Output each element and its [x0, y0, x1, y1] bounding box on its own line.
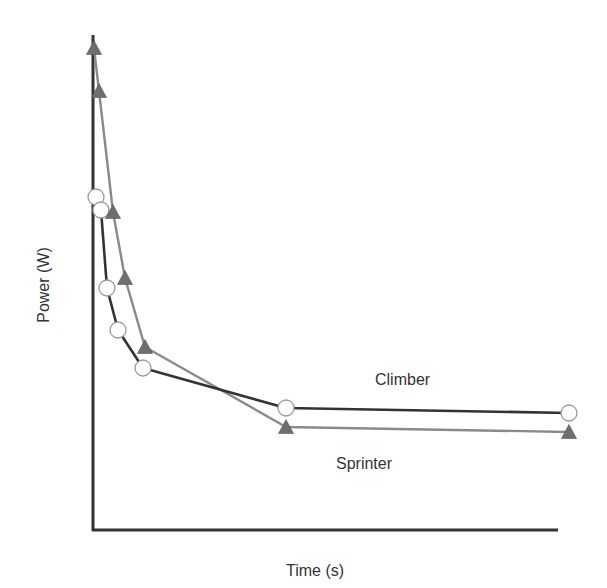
climber-series-label: Climber — [375, 371, 430, 389]
circle-marker-icon — [110, 322, 126, 338]
series-markers — [87, 41, 578, 439]
circle-marker-icon — [278, 400, 294, 416]
circle-marker-icon — [135, 360, 151, 376]
x-axis-label: Time (s) — [286, 562, 344, 580]
triangle-marker-icon — [118, 271, 133, 285]
circle-marker-icon — [99, 280, 115, 296]
climber-line — [96, 197, 569, 413]
chart-axes — [92, 35, 558, 531]
circle-marker-icon — [93, 202, 109, 218]
triangle-marker-icon — [138, 340, 153, 354]
y-axis-label: Power (W) — [35, 247, 53, 323]
triangle-marker-icon — [87, 41, 102, 55]
line-chart — [0, 0, 607, 588]
sprinter-series-label: Sprinter — [336, 455, 392, 473]
series-lines — [94, 48, 569, 432]
circle-marker-icon — [561, 405, 577, 421]
